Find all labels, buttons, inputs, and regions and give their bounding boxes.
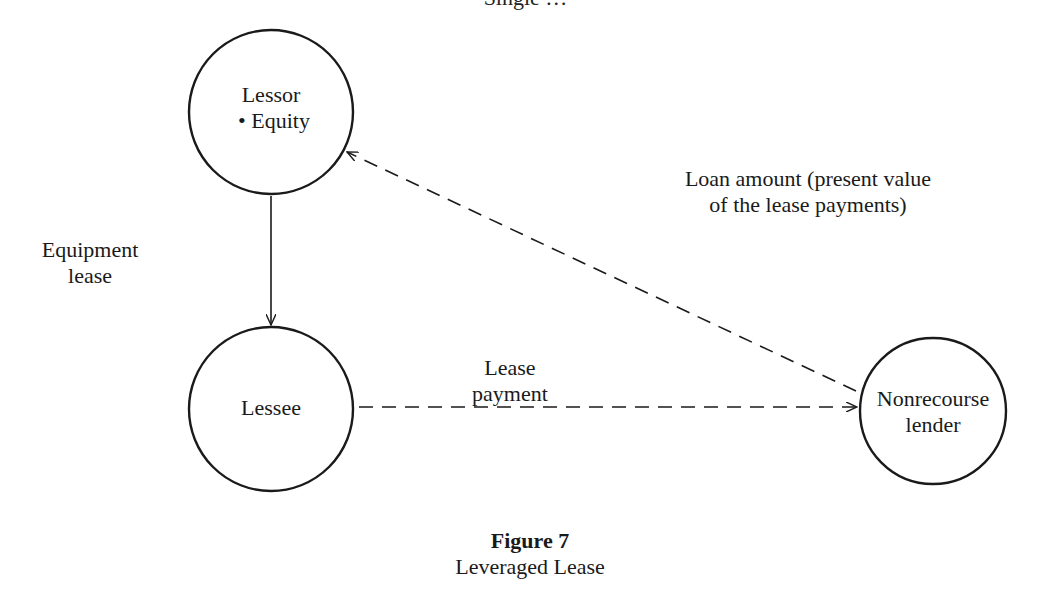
lease-payment-line2: payment [450, 381, 570, 407]
loan-amount-line1: Loan amount (present value [648, 166, 968, 192]
lease-payment-label: Lease payment [450, 355, 570, 407]
lender-label-line2: lender [858, 412, 1008, 438]
lessor-label: Lessor [231, 82, 311, 108]
lessor-equity-item: • Equity [219, 108, 329, 134]
lender-label-line1: Nonrecourse [858, 386, 1008, 412]
lessor-title: Lessor [242, 82, 301, 107]
lessee-label: Lessee [221, 395, 321, 421]
lender-label: Nonrecourse lender [858, 386, 1008, 438]
lease-payment-line1: Lease [450, 355, 570, 381]
equipment-lease-line1: Equipment [25, 237, 155, 263]
bullet-icon: • [238, 108, 246, 133]
loan-amount-line2: of the lease payments) [648, 192, 968, 218]
figure-title: Leveraged Lease [420, 554, 640, 580]
figure-number: Figure 7 [420, 528, 640, 554]
lessor-equity-text: Equity [251, 108, 310, 133]
figure-caption: Figure 7 Leveraged Lease [420, 528, 640, 580]
equipment-lease-label: Equipment lease [25, 237, 155, 289]
equipment-lease-line2: lease [25, 263, 155, 289]
diagram-canvas [0, 0, 1051, 593]
loan-amount-label: Loan amount (present value of the lease … [648, 166, 968, 218]
